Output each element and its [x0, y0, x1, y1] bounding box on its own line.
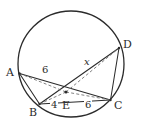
- vertex-dot-b: [38, 103, 40, 105]
- vertex-dot-a: [18, 72, 20, 74]
- vertex-dot-d: [118, 47, 120, 49]
- vertex-label-a: A: [6, 67, 14, 78]
- circle-outline: [18, 11, 124, 117]
- length-ec: 6: [84, 100, 92, 110]
- vertex-label-d: D: [123, 39, 132, 50]
- vertex-dot-c: [109, 99, 111, 101]
- vertex-dot-e: [65, 91, 68, 94]
- solid-segment-group: [20, 48, 120, 104]
- vertex-dot-group: [18, 47, 120, 105]
- geometry-canvas: [0, 0, 145, 130]
- chord-a-c: [20, 74, 111, 101]
- geometry-figure: ABCDE 664x: [0, 0, 145, 130]
- vertex-label-c: C: [114, 100, 122, 111]
- chord-b-d: [40, 48, 120, 104]
- length-ae: 6: [41, 65, 49, 75]
- measure-a-e: [20, 74, 67, 93]
- side-c-d: [111, 48, 120, 100]
- vertex-label-e: E: [62, 100, 70, 111]
- length-ed: x: [83, 57, 91, 67]
- length-be: 4: [50, 100, 58, 110]
- measure-e-d: [66, 48, 119, 92]
- vertex-label-b: B: [29, 107, 37, 118]
